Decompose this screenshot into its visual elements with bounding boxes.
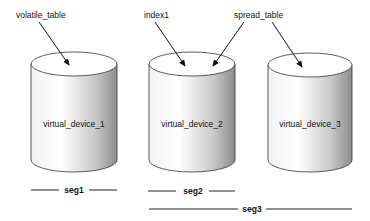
device-label-3: virtual_device_3 — [279, 119, 341, 129]
segment-label-seg2: seg2 — [183, 186, 203, 196]
label-volatile-table: volatile_table — [16, 10, 66, 20]
label-index1: index1 — [144, 10, 169, 20]
segment-seg2: seg2 — [148, 186, 235, 196]
segment-label-seg3: seg3 — [242, 204, 262, 214]
cylinder-virtual-device-1 — [31, 52, 117, 172]
segment-label-seg1: seg1 — [64, 185, 84, 195]
device-label-2: virtual_device_2 — [161, 119, 223, 129]
cylinder-virtual-device-3 — [268, 53, 352, 172]
cylinder-virtual-device-2 — [149, 52, 235, 172]
device-label-1: virtual_device_1 — [43, 119, 105, 129]
segment-seg3: seg3 — [149, 204, 352, 214]
segment-seg1: seg1 — [31, 185, 117, 195]
label-spread-table: spread_table — [234, 10, 283, 20]
segment-diagram: volatile_table index1 spread_table virtu… — [0, 0, 370, 221]
